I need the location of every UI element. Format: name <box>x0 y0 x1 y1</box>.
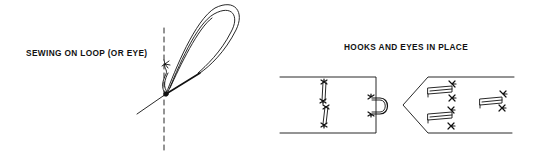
hook-bottom-left <box>428 107 455 129</box>
loop-inner <box>168 10 235 92</box>
loop-outer <box>166 5 239 94</box>
hooks-eyes-figure <box>280 77 514 133</box>
eye-loop-edge <box>368 94 388 117</box>
illustration-canvas <box>0 0 541 157</box>
sewing-loop-figure <box>137 5 239 150</box>
eye-left-bottom <box>321 105 329 128</box>
thread-line <box>137 94 166 114</box>
eye-left-top <box>320 79 327 104</box>
hook-top-left <box>428 81 456 101</box>
hook-right <box>480 91 507 111</box>
fabric-panel-right <box>403 77 514 133</box>
